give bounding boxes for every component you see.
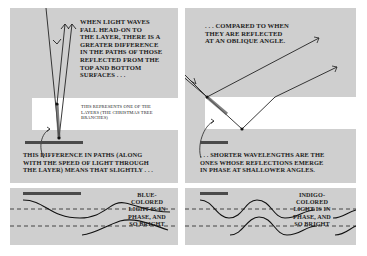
caption-line: ONES WHOSE REFLECTIONS EMERGE [200,159,356,167]
panel-head-on: WHEN LIGHT WAVES FALL HEAD-ON TO THE LAY… [10,8,178,183]
wave-label-line: PHASE, AND [287,213,337,220]
layer-label-line: BRANCHES) [81,115,176,121]
wave-label-line: INDIGO- [287,191,337,198]
caption-line: FALL HEAD-ON TO [80,26,178,34]
caption-line: TOP AND BOTTOM [80,64,178,72]
path-difference-caption: THIS DIFFERENCE IN PATHS (ALONG WITH THE… [23,151,178,174]
wave-label-line: COLORED [122,198,172,205]
head-on-caption: WHEN LIGHT WAVES FALL HEAD-ON TO THE LAY… [80,18,178,79]
caption-line: WHEN LIGHT WAVES [80,18,178,26]
caption-line: GREATER DIFFERENCE [80,41,178,49]
wave-label-line: SO BRIGHT [287,220,337,227]
caption-line: IN THE PATHS OF THOSE [80,48,178,56]
caption-line: . . . SHORTER WAVELENGTHS ARE THE [200,151,356,159]
panel-blue-waves: BLUE- COLORED LIGHT IS IN PHASE, AND SO … [10,188,178,245]
caption-line: WITH THE SPEED OF LIGHT THROUGH [23,159,178,167]
wave-label-line: LIGHT IS IN [122,205,172,212]
caption-line: . . . COMPARED TO WHEN [205,22,325,30]
shorter-wavelengths-caption: . . . SHORTER WAVELENGTHS ARE THE ONES W… [200,151,356,174]
oblique-caption: . . . COMPARED TO WHEN THEY ARE REFLECTE… [205,22,325,45]
caption-line: AT AN OBLIQUE ANGLE. [205,37,325,45]
caption-line: THIS DIFFERENCE IN PATHS (ALONG [23,151,178,159]
caption-line: REFLECTED FROM THE [80,56,178,64]
wave-label-line: SO BRIGHT [122,220,172,227]
wave-label-line: BLUE- [122,191,172,198]
caption-line: SURFACES . . . [80,71,178,79]
caption-line: THE LAYER, THERE IS A [80,33,178,41]
caption-line: THEY ARE REFLECTED [205,30,325,38]
caption-line: IN PHASE AT SHALLOWER ANGLES. [200,166,356,174]
wave-label-line: PHASE, AND [122,213,172,220]
panel-oblique: . . . COMPARED TO WHEN THEY ARE REFLECTE… [185,8,356,183]
panel-indigo-waves: INDIGO- COLORED LIGHT IS IN PHASE, AND S… [185,188,356,245]
wave-label-line: COLORED [287,198,337,205]
wave-label-line: LIGHT IS IN [287,205,337,212]
indigo-wave-label: INDIGO- COLORED LIGHT IS IN PHASE, AND S… [287,191,337,227]
caption-line: THE LAYER) MEANS THAT SLIGHTLY . . . [23,166,178,174]
layer-label: THIS REPRESENTS ONE OF THE LAYERS (THE C… [81,104,176,121]
blue-wave-label: BLUE- COLORED LIGHT IS IN PHASE, AND SO … [122,191,172,227]
